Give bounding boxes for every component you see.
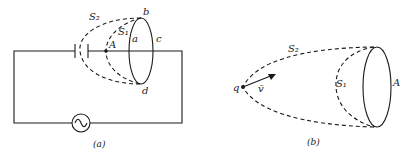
label-loop-a: A	[392, 77, 400, 88]
figure-b: S₂ S₁ A q v̄ (b)	[233, 43, 400, 147]
label-a: a	[132, 33, 138, 44]
circuit-wire-left	[14, 51, 75, 123]
label-s2-b: S₂	[288, 43, 299, 54]
loop-a	[363, 47, 391, 127]
caption-b: (b)	[307, 137, 320, 147]
capacitor-icon	[75, 44, 88, 58]
figure-canvas: S₂ S₁ A b a c d (a) S₂ S₁ A q v̄ (b)	[0, 0, 414, 152]
label-d: d	[142, 85, 148, 96]
label-point-a: A	[108, 39, 116, 50]
ac-source-icon	[72, 114, 90, 132]
label-charge-q: q	[233, 82, 239, 93]
caption-a: (a)	[93, 139, 106, 149]
point-a-dot	[104, 49, 108, 53]
label-c: c	[156, 33, 162, 44]
label-s2-a: S₂	[89, 11, 100, 22]
figure-a: S₂ S₁ A b a c d (a)	[14, 6, 182, 149]
label-b: b	[143, 6, 149, 17]
label-s1-b: S₁	[336, 78, 347, 89]
label-s1-a: S₁	[118, 26, 129, 37]
label-velocity: v̄	[258, 83, 264, 94]
circuit-wire-right	[88, 51, 182, 123]
